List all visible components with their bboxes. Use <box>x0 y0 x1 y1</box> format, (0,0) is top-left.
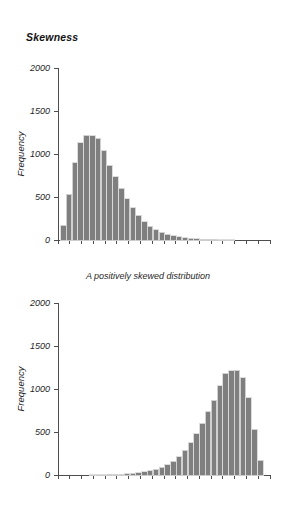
x-axis-title: Score <box>152 488 177 490</box>
histogram-bar <box>61 225 67 240</box>
histogram-bar <box>200 239 206 240</box>
bar-rect <box>194 434 200 475</box>
bar-rect <box>113 474 119 475</box>
histogram-bar <box>171 236 177 240</box>
y-tick-label: 2000 <box>29 298 50 308</box>
bar-rect <box>165 465 171 475</box>
bar-rect <box>240 378 246 475</box>
histogram-bar <box>124 474 130 475</box>
y-tick-label: 1500 <box>30 106 50 116</box>
bar-rect <box>217 386 223 475</box>
bar-rect <box>171 461 177 475</box>
bar-rect <box>147 226 153 240</box>
bar-rect <box>200 423 206 475</box>
bar-rect <box>188 238 194 240</box>
histogram-bar <box>194 434 200 475</box>
bar-rect <box>171 236 177 240</box>
histogram-bar <box>147 226 153 240</box>
bar-rect <box>107 165 113 240</box>
histogram-bar <box>223 373 229 475</box>
bar-rect <box>84 135 90 240</box>
histogram-bar <box>176 237 182 240</box>
bar-rect <box>159 232 165 240</box>
y-tick-label: 0 <box>45 470 50 480</box>
bar-rect <box>130 208 136 240</box>
histogram-bar <box>165 465 171 475</box>
bar-rect <box>205 239 211 240</box>
y-axis-title: Frequency <box>15 130 26 176</box>
y-tick-label: 1500 <box>30 341 50 351</box>
bar-rect <box>124 199 130 240</box>
bar-rect <box>182 450 188 475</box>
histogram-bar <box>142 472 148 475</box>
histogram-bar <box>171 461 177 475</box>
bar-rect <box>142 472 148 475</box>
bar-rect <box>153 230 159 240</box>
histogram-bar <box>165 234 171 240</box>
histogram-bar <box>84 135 90 240</box>
bar-rect <box>246 398 252 475</box>
histogram-bar <box>124 199 130 240</box>
bar-rect <box>136 215 142 240</box>
chart-negative-skew: 0500100015002000ScoreFrequency <box>0 290 296 490</box>
histogram-bar <box>153 230 159 240</box>
bar-rect <box>188 443 194 475</box>
histogram-bar <box>211 239 217 240</box>
y-tick-label: 1000 <box>30 384 50 394</box>
x-axis-title: Score <box>152 253 177 255</box>
bar-rect <box>258 460 264 475</box>
chart-positive-skew: 0500100015002000ScoreFrequency <box>0 55 296 255</box>
bar-rect <box>66 194 72 240</box>
bar-rect <box>252 429 258 475</box>
histogram-bar <box>252 429 258 475</box>
histogram-bar <box>113 177 119 240</box>
histogram-bar <box>182 238 188 240</box>
bar-rect <box>61 225 67 240</box>
histogram-bar <box>205 412 211 475</box>
bar-rect <box>223 373 229 475</box>
histogram-bar <box>188 238 194 240</box>
bar-rect <box>176 457 182 475</box>
y-tick-label: 1000 <box>30 149 50 159</box>
bar-rect <box>101 151 107 240</box>
bar-rect <box>205 412 211 475</box>
bar-rect <box>136 473 142 475</box>
histogram-bar <box>217 386 223 475</box>
y-tick-label: 500 <box>35 427 50 437</box>
bar-rect <box>153 469 159 475</box>
bar-rect <box>211 400 217 475</box>
positive-skew-plot: 0500100015002000ScoreFrequency <box>0 55 296 255</box>
histogram-bar <box>159 232 165 240</box>
y-tick-label: 2000 <box>29 63 50 73</box>
histogram-bar <box>95 138 101 240</box>
histogram-bar <box>90 136 96 240</box>
bar-rect <box>182 238 188 240</box>
histogram-bar <box>159 467 165 475</box>
bar-rect <box>107 474 113 475</box>
histogram-bar <box>107 474 113 475</box>
negative-skew-plot: 0500100015002000ScoreFrequency <box>0 290 296 490</box>
histogram-bar <box>211 400 217 475</box>
histogram-bar <box>229 371 235 475</box>
bar-rect <box>90 136 96 240</box>
y-axis-title: Frequency <box>15 365 26 411</box>
histogram-bar <box>240 378 246 475</box>
histogram-bar <box>107 165 113 240</box>
bar-rect <box>234 370 240 475</box>
bar-rect <box>78 143 84 240</box>
bar-rect <box>113 177 119 240</box>
histogram-bar <box>176 457 182 475</box>
histogram-bar <box>78 143 84 240</box>
bar-rect <box>142 222 148 240</box>
histogram-bar <box>246 398 252 475</box>
y-tick-label: 0 <box>45 235 50 245</box>
histogram-bar <box>130 208 136 240</box>
histogram-bar <box>136 473 142 475</box>
bar-rect <box>229 371 235 475</box>
histogram-bar <box>234 370 240 475</box>
histogram-bar <box>72 163 78 240</box>
bar-rect <box>119 474 125 475</box>
bar-rect <box>165 234 171 240</box>
histogram-bar <box>205 239 211 240</box>
histogram-bar <box>182 450 188 475</box>
